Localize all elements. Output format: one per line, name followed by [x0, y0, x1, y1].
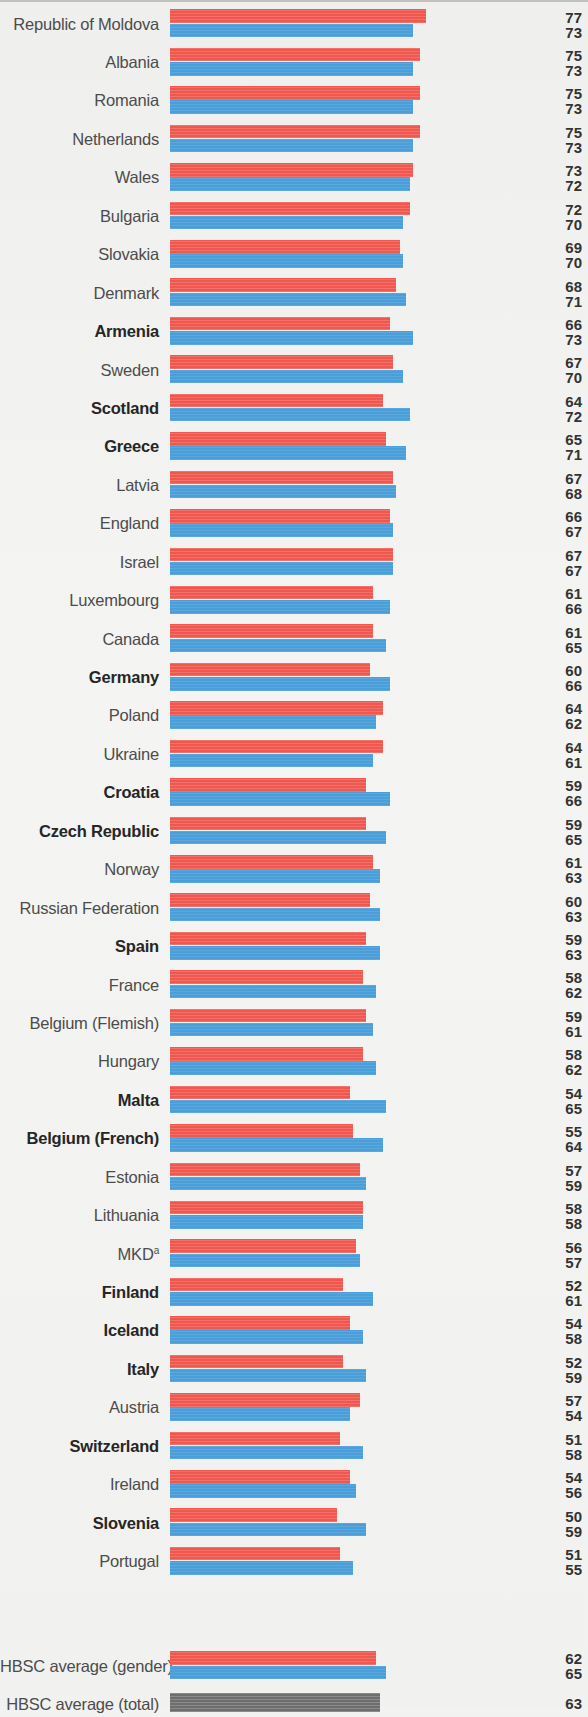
value-girls: 72: [565, 409, 582, 424]
bar-girls: [170, 1330, 363, 1344]
bar-group: 6767: [165, 543, 588, 581]
bar-girls: [170, 792, 390, 806]
table-row: Armenia6673: [0, 313, 588, 351]
footnote-marker: a: [154, 1244, 159, 1255]
value-boys: 75: [565, 48, 582, 63]
bar-boys: [170, 1047, 363, 1061]
bar-girls: [170, 1215, 363, 1229]
value-labels: 5261: [522, 1273, 582, 1311]
row-label: Albania: [0, 54, 165, 71]
bar-boys: [170, 701, 383, 715]
value-labels: 6871: [522, 274, 582, 312]
value-labels: 5259: [522, 1350, 582, 1388]
value-boys: 57: [565, 1393, 582, 1408]
value-labels: 6667: [522, 505, 582, 543]
row-label: Netherlands: [0, 131, 165, 148]
bar-group: 5158: [165, 1427, 588, 1465]
bar-group: 7573: [165, 120, 588, 158]
bar-group: 6163: [165, 851, 588, 889]
bar-boys: [170, 509, 390, 523]
value-boys: 59: [565, 817, 582, 832]
value-boys: 58: [565, 1201, 582, 1216]
bar-girls: [170, 1138, 383, 1152]
table-row: Estonia5759: [0, 1158, 588, 1196]
bar-girls: [170, 485, 396, 499]
row-label: Wales: [0, 169, 165, 186]
value-girls: 59: [565, 1370, 582, 1385]
value-labels: 7270: [522, 197, 582, 235]
value-girls: 58: [565, 1216, 582, 1231]
bar-girls: [170, 62, 413, 76]
value-girls: 73: [565, 101, 582, 116]
row-label: Romania: [0, 92, 165, 109]
bar-group: 5759: [165, 1158, 588, 1196]
bar-boys: [170, 48, 420, 62]
value-girls: 55: [565, 1562, 582, 1577]
row-label: England: [0, 515, 165, 532]
bar-group: 5966: [165, 774, 588, 812]
value-boys: 59: [565, 932, 582, 947]
table-row: Ireland5456: [0, 1466, 588, 1504]
value-boys: 55: [565, 1124, 582, 1139]
row-label: Bulgaria: [0, 208, 165, 225]
bar-boys: [170, 317, 390, 331]
value-labels: 7372: [522, 159, 582, 197]
bar-group: 5155: [165, 1543, 588, 1581]
value-boys: 60: [565, 663, 582, 678]
bar-girls: [170, 600, 390, 614]
value-boys: 54: [565, 1316, 582, 1331]
value-girls: 54: [565, 1408, 582, 1423]
bar-boys: [170, 1316, 350, 1330]
table-row: Austria5754: [0, 1389, 588, 1427]
value-boys: 69: [565, 240, 582, 255]
bar-group: 5465: [165, 1081, 588, 1119]
value-labels: 6166: [522, 582, 582, 620]
value-boys: 67: [565, 355, 582, 370]
value-girls: 71: [565, 294, 582, 309]
bar-girls: [170, 1666, 386, 1680]
value-girls: 59: [565, 1178, 582, 1193]
bar-girls: [170, 985, 376, 999]
bar-group: 6871: [165, 274, 588, 312]
value-labels: 6265: [522, 1647, 582, 1685]
bar-boys: [170, 817, 366, 831]
value-boys: 51: [565, 1547, 582, 1562]
value-boys: 64: [565, 394, 582, 409]
row-label: Slovakia: [0, 246, 165, 263]
bar-girls: [170, 523, 393, 537]
bar-boys: [170, 548, 393, 562]
value-girls: 65: [565, 1101, 582, 1116]
row-label: Malta: [0, 1092, 165, 1109]
table-row: Sweden6770: [0, 351, 588, 389]
value-labels: 6770: [522, 351, 582, 389]
bar-boys: [170, 1547, 340, 1561]
row-label: Republic of Moldova: [0, 16, 165, 33]
value-girls: 58: [565, 1331, 582, 1346]
value-girls: 68: [565, 486, 582, 501]
bar-boys: [170, 1278, 343, 1292]
value-labels: 5754: [522, 1389, 582, 1427]
row-label: Greece: [0, 438, 165, 455]
row-label: Canada: [0, 631, 165, 648]
bar-boys: [170, 932, 366, 946]
bar-girls: [170, 100, 413, 114]
row-label: Norway: [0, 861, 165, 878]
bar-boys: [170, 1124, 353, 1138]
row-label: Finland: [0, 1284, 165, 1301]
bar-girls: [170, 1292, 373, 1306]
table-row: MKDa5657: [0, 1235, 588, 1273]
value-girls: 70: [565, 217, 582, 232]
value-labels: 6066: [522, 658, 582, 696]
bar-boys: [170, 86, 420, 100]
value-boys: 75: [565, 86, 582, 101]
value-labels: 7573: [522, 120, 582, 158]
row-label: Hungary: [0, 1053, 165, 1070]
bar-boys: [170, 202, 410, 216]
value-boys: 51: [565, 1432, 582, 1447]
bar-girls: [170, 216, 403, 230]
value-labels: 6063: [522, 889, 582, 927]
bar-boys: [170, 1009, 366, 1023]
row-label: Croatia: [0, 784, 165, 801]
bar-girls: [170, 1446, 363, 1460]
